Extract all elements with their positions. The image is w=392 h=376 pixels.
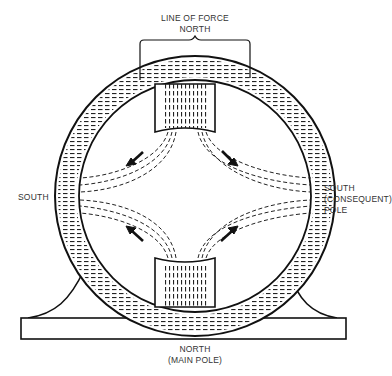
label-south-consequent: SOUTH (CONSEQUENT) POLE: [324, 183, 392, 216]
label-bottom-line1: NORTH: [150, 344, 240, 355]
label-bottom-line2: (MAIN POLE): [150, 355, 240, 366]
label-right-line1: SOUTH: [324, 183, 392, 194]
label-right-line3: POLE: [324, 205, 392, 216]
label-south-left: SOUTH: [18, 192, 49, 203]
label-right-line2: (CONSEQUENT): [324, 194, 392, 205]
label-north-main-pole: NORTH (MAIN POLE): [150, 344, 240, 366]
north-pole-bottom: [155, 258, 215, 307]
label-top-line1: LINE OF FORCE: [150, 13, 240, 24]
label-line-of-force: LINE OF FORCE NORTH: [150, 13, 240, 35]
label-top-line2: NORTH: [150, 24, 240, 35]
north-pole-top: [155, 84, 215, 132]
